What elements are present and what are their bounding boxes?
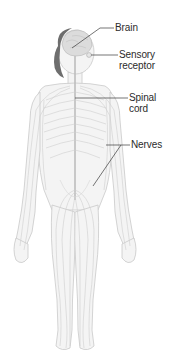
label-brain-text: Brain	[115, 22, 138, 33]
label-spinal-cord-line1: Spinal	[129, 92, 156, 103]
label-sensory-receptor-line2: receptor	[119, 60, 155, 71]
eye-sensory-receptor	[87, 53, 92, 58]
label-spinal-cord: Spinal cord	[129, 92, 156, 114]
head	[54, 28, 94, 78]
label-sensory-receptor-line1: Sensory	[119, 49, 155, 60]
label-spinal-cord-line2: cord	[129, 103, 156, 114]
label-nerves-text: Nerves	[131, 139, 162, 150]
nervous-system-diagram: Brain Sensory receptor Spinal cord Nerve…	[0, 0, 171, 361]
label-nerves: Nerves	[131, 139, 162, 150]
label-brain: Brain	[115, 22, 138, 33]
label-sensory-receptor: Sensory receptor	[119, 49, 155, 71]
brain-shape	[62, 30, 92, 56]
